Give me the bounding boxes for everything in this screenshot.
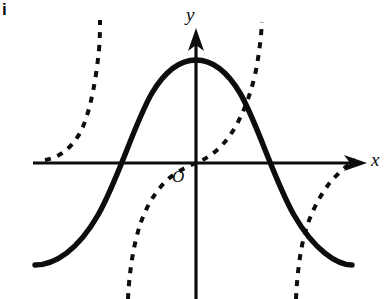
graph-canvas: [0, 0, 388, 299]
origin-label: O: [172, 168, 184, 185]
x-axis-label: x: [371, 150, 379, 169]
tangent-right-branch: [296, 160, 356, 299]
part-label: i: [2, 1, 7, 18]
tangent-left-branch: [45, 20, 100, 160]
math-figure: i y x O: [0, 0, 388, 299]
y-axis-label: y: [186, 5, 194, 24]
